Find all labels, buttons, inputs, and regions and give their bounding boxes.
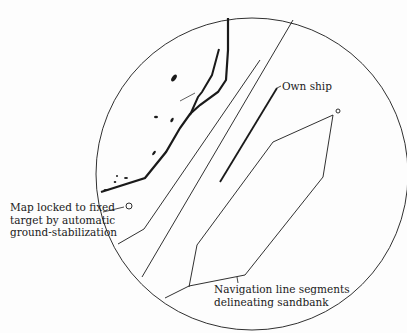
own-ship-track <box>220 88 277 182</box>
echo-clutter <box>104 74 178 191</box>
channel-boundary-right <box>142 20 293 277</box>
map-locked-label-line-2: target by automatic <box>10 214 117 227</box>
map-locked-label-line-1: Map locked to fixed <box>10 201 117 214</box>
coastline-echo <box>101 18 228 192</box>
map-locked-label-line-3: ground-stabilization <box>10 226 117 239</box>
own-ship-leader <box>277 86 281 88</box>
coastline-echo-thin <box>180 93 195 101</box>
fixed-target-marker <box>126 203 132 209</box>
navigation-lines-label-line-2: delineating sandbank <box>214 296 350 309</box>
sandbank-vertex-marker <box>336 109 340 113</box>
radar-diagram: Own ship Map locked to fixed target by a… <box>0 0 407 333</box>
map-locked-label: Map locked to fixed target by automatic … <box>10 201 117 239</box>
navigation-lines-label: Navigation line segments delineating san… <box>214 283 350 308</box>
own-ship-label: Own ship <box>282 80 332 93</box>
coastline-echo-branch <box>190 49 219 115</box>
navigation-lines-label-line-1: Navigation line segments <box>214 283 350 296</box>
sandbank-navigation-lines <box>165 115 333 298</box>
